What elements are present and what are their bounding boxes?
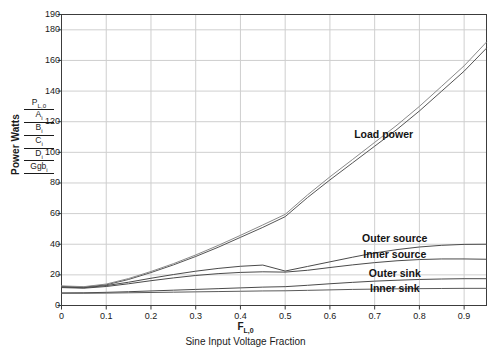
- annotation-outer-sink: Outer sink: [369, 267, 421, 279]
- chart-figure: Power Watts PL,0 Ai Bi Ci Di Ggbi 020406…: [0, 0, 491, 354]
- x-tick-0.7: 0.7: [360, 312, 390, 321]
- x-axis-tick-labels: 00.10.20.30.40.50.60.70.80.9: [0, 0, 491, 354]
- x-tick-0.1: 0.1: [91, 312, 121, 321]
- x-axis-title: Sine Input Voltage Fraction: [0, 336, 491, 347]
- annotation-outer-source: Outer source: [362, 232, 427, 244]
- annotation-inner-sink: Inner sink: [370, 282, 420, 294]
- annotation-load-power: Load power: [354, 128, 413, 140]
- x-tick-0: 0: [47, 312, 77, 321]
- x-tick-0.2: 0.2: [136, 312, 166, 321]
- x-tick-0.9: 0.9: [449, 312, 479, 321]
- annotation-inner-source: Inner source: [363, 248, 426, 260]
- x-axis-symbol: FL,0: [0, 321, 491, 334]
- x-tick-0.5: 0.5: [270, 312, 300, 321]
- x-tick-0.3: 0.3: [181, 312, 211, 321]
- x-tick-0.8: 0.8: [404, 312, 434, 321]
- x-tick-0.6: 0.6: [315, 312, 345, 321]
- x-axis-symbol-subscript: L,0: [243, 327, 253, 334]
- x-tick-0.4: 0.4: [225, 312, 255, 321]
